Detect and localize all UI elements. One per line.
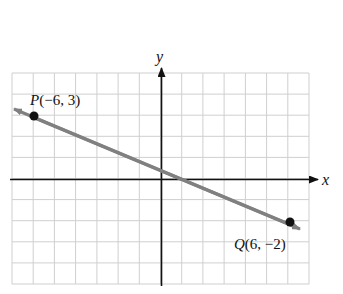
x-axis-label: x xyxy=(321,171,329,188)
line-pq-end xyxy=(30,116,300,229)
point-p-label: P(−6, 3) xyxy=(29,92,80,109)
y-axis-label: y xyxy=(154,48,164,66)
point-p xyxy=(30,112,39,121)
point-q-coords: (6, −2) xyxy=(245,236,286,253)
point-q xyxy=(286,218,295,227)
point-p-letter: P xyxy=(29,92,39,108)
coordinate-plane: x y P(−6, 3) Q(6, −2) xyxy=(0,0,343,294)
point-p-coords: (−6, 3) xyxy=(39,92,80,109)
point-q-letter: Q xyxy=(234,236,245,252)
point-q-label: Q(6, −2) xyxy=(234,236,286,253)
